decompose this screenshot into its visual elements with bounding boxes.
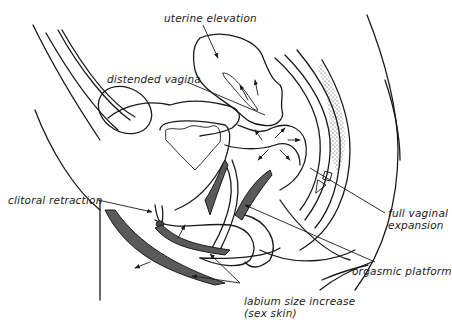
label-labium-size-increase: labium size increase — [244, 295, 355, 307]
labia-shaded — [105, 160, 272, 285]
rectum-layers — [275, 15, 400, 290]
label-orgasmic-platform: orgasmic platform — [352, 265, 452, 277]
bladder-lining — [166, 126, 221, 170]
leader-distended-vagina — [187, 82, 265, 115]
label-full-vaginal-expansion-1: full vaginal — [388, 207, 448, 219]
clitoris — [155, 205, 164, 227]
anatomy-diagram — [0, 0, 452, 329]
uterus — [193, 34, 282, 125]
leader-uterine-elevation — [203, 25, 218, 58]
label-sex-skin: (sex skin) — [244, 307, 297, 319]
label-full-vaginal-expansion-2: expansion — [388, 219, 444, 231]
label-clitoral-retraction: clitoral retraction — [8, 194, 103, 206]
label-uterine-elevation: uterine elevation — [164, 12, 257, 24]
abdominal-wall-lines — [33, 25, 135, 210]
label-distended-vagina: distended vagina — [107, 73, 201, 85]
